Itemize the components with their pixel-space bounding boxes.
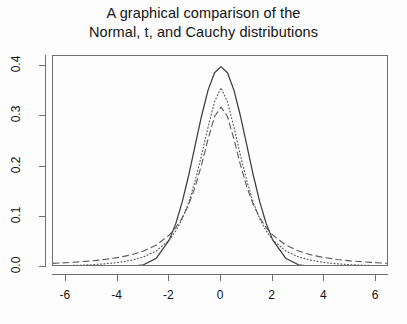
y-tick-mark [39,266,46,267]
y-tick-mark [39,216,46,217]
y-tick-mark [39,115,46,116]
page-title: A graphical comparison of the Normal, t,… [0,4,407,42]
x-tick-label: 6 [360,288,390,302]
x-tick-label: -4 [102,288,132,302]
y-tick-label: 0.3 [9,97,23,131]
y-axis-line [45,55,46,266]
x-tick-label: -2 [153,288,183,302]
y-tick-mark [39,166,46,167]
series-line-normal [53,67,388,266]
y-tick-label: 0.1 [9,198,23,232]
x-tick-label: 4 [308,288,338,302]
x-tick-mark [323,274,324,281]
y-tick-label: 0.4 [9,47,23,81]
plot-panel [52,55,388,266]
plot-curves [53,56,388,266]
x-tick-mark [168,274,169,281]
y-tick-mark [39,65,46,66]
series-line-cauchy [53,107,388,263]
x-tick-label: 0 [205,288,235,302]
x-tick-mark [272,274,273,281]
y-tick-label: 0.0 [9,248,23,282]
x-tick-mark [65,274,66,281]
x-tick-mark [220,274,221,281]
x-tick-mark [375,274,376,281]
x-tick-mark [117,274,118,281]
y-tick-label: 0.2 [9,148,23,182]
x-tick-label: -6 [50,288,80,302]
series-line-t [53,88,388,266]
x-tick-label: 2 [257,288,287,302]
chart-figure: A graphical comparison of the Normal, t,… [0,0,407,324]
